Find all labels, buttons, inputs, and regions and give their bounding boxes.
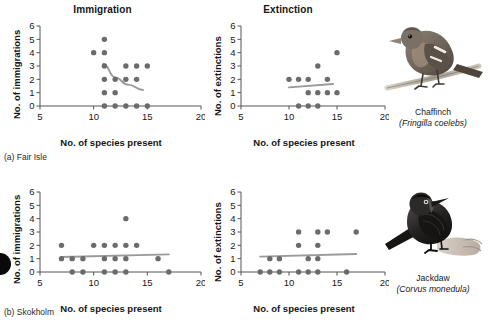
bird-scientific-name-jackdaw: (Corvus monedula) — [374, 284, 492, 295]
data-point — [59, 243, 64, 248]
chart-title-extinction-a: Extinction — [203, 4, 373, 15]
y-tick-label: 0 — [29, 266, 34, 277]
data-point — [112, 103, 117, 108]
y-tick-label: 2 — [29, 240, 34, 251]
data-point — [112, 269, 117, 274]
trend-line — [289, 84, 333, 87]
data-point — [296, 77, 301, 82]
data-point — [166, 269, 171, 274]
data-point — [80, 269, 85, 274]
y-tick-label: 4 — [230, 213, 235, 224]
chaffinch-illustration — [379, 14, 487, 106]
y-axis-label-immigrations-a: No. of immigrations — [11, 30, 22, 119]
y-tick-label: 3 — [230, 60, 235, 71]
data-point — [354, 229, 359, 234]
data-point — [306, 77, 311, 82]
y-tick-label: 3 — [29, 226, 34, 237]
data-point — [315, 269, 320, 274]
data-point — [145, 103, 150, 108]
data-point — [296, 103, 301, 108]
data-point — [296, 229, 301, 234]
x-tick-label: 15 — [142, 277, 153, 288]
y-tick-label: 4 — [230, 47, 235, 58]
data-point — [344, 269, 349, 274]
bird-block-jackdaw: Jackdaw (Corvus monedula) — [374, 180, 492, 294]
y-tick-label: 0 — [230, 266, 235, 277]
plot-area-skokholm-extinction: 01234565101520 — [223, 188, 389, 290]
data-point — [102, 50, 107, 55]
y-tick-label: 0 — [230, 100, 235, 111]
data-point — [112, 77, 117, 82]
y-tick-label: 5 — [29, 34, 34, 45]
x-tick-label: 5 — [37, 277, 42, 288]
plot-area-fair-isle-immigration: 01234565101520 — [22, 22, 205, 124]
data-point — [112, 90, 117, 95]
y-tick-label: 1 — [230, 253, 235, 264]
data-point — [123, 63, 128, 68]
data-point — [325, 77, 330, 82]
data-point — [315, 256, 320, 261]
data-point — [102, 256, 107, 261]
data-point — [102, 37, 107, 42]
y-tick-label: 3 — [29, 60, 34, 71]
data-point — [123, 103, 128, 108]
x-tick-label: 15 — [142, 111, 153, 122]
data-point — [306, 103, 311, 108]
y-tick-label: 1 — [29, 87, 34, 98]
data-point — [325, 90, 330, 95]
data-point — [123, 243, 128, 248]
data-point — [112, 256, 117, 261]
data-point — [102, 269, 107, 274]
data-point — [145, 63, 150, 68]
y-tick-label: 4 — [29, 213, 34, 224]
data-point — [315, 229, 320, 234]
x-tick-label: 10 — [88, 277, 99, 288]
data-point — [102, 77, 107, 82]
data-point — [102, 90, 107, 95]
data-point — [286, 77, 291, 82]
y-tick-label: 2 — [29, 74, 34, 85]
plot-area-fair-isle-extinction: 01234565101520 — [223, 22, 389, 124]
data-point — [102, 243, 107, 248]
data-point — [102, 103, 107, 108]
panel-caption-skokholm: (b) Skokholm — [4, 307, 54, 317]
data-point — [296, 269, 301, 274]
y-tick-label: 6 — [29, 22, 34, 31]
y-tick-label: 2 — [230, 74, 235, 85]
data-point — [134, 243, 139, 248]
data-point — [155, 256, 160, 261]
y-axis-label-extinctions-a: No. of extinctions — [212, 36, 223, 116]
y-axis-label-immigrations-b: No. of immigrations — [11, 195, 22, 284]
data-point — [112, 243, 117, 248]
data-point — [258, 269, 263, 274]
panel-fair-isle-immigration: Immigration No. of immigrations 01234565… — [0, 4, 205, 154]
plot-area-skokholm-immigration: 01234565101520 — [22, 188, 205, 290]
x-tick-label: 15 — [332, 277, 343, 288]
data-point — [267, 269, 272, 274]
data-point — [267, 256, 272, 261]
data-point — [315, 63, 320, 68]
bird-common-name-chaffinch: Chaffinch — [374, 107, 492, 118]
data-point — [306, 90, 311, 95]
chart-title-immigration-a: Immigration — [0, 4, 205, 15]
y-tick-label: 5 — [29, 200, 34, 211]
data-point — [91, 243, 96, 248]
data-point — [296, 243, 301, 248]
x-tick-label: 10 — [284, 277, 295, 288]
data-point — [91, 50, 96, 55]
y-tick-label: 5 — [230, 200, 235, 211]
y-tick-label: 2 — [230, 240, 235, 251]
y-tick-label: 0 — [29, 100, 34, 111]
figure-root: Immigration No. of immigrations 01234565… — [0, 0, 494, 326]
y-tick-label: 6 — [230, 22, 235, 31]
data-point — [325, 229, 330, 234]
bird-block-chaffinch: Chaffinch (Fringilla coelebs) — [374, 14, 492, 128]
data-point — [306, 269, 311, 274]
x-tick-label: 5 — [37, 111, 42, 122]
y-tick-label: 6 — [29, 188, 34, 197]
data-point — [315, 90, 320, 95]
data-point — [59, 256, 64, 261]
bird-common-name-jackdaw: Jackdaw — [374, 273, 492, 284]
data-point — [315, 103, 320, 108]
panel-fair-isle-extinction: Extinction No. of extinctions 0123456510… — [203, 4, 393, 154]
